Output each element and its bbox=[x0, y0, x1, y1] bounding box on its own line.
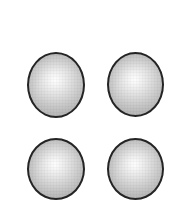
sphere-bottom-left bbox=[27, 138, 85, 200]
sphere-bottom-right bbox=[107, 138, 164, 200]
figure-canvas bbox=[0, 0, 176, 207]
sphere-top-right bbox=[107, 52, 164, 117]
sphere-top-left bbox=[27, 52, 85, 118]
